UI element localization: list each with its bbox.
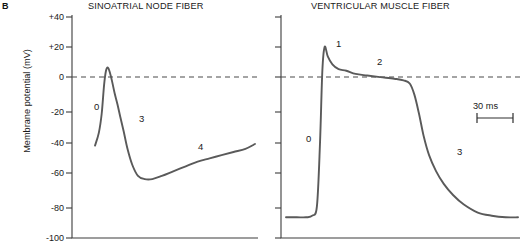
phase-label-vm-0: 0	[306, 133, 311, 144]
chart-title-ventricular: VENTRICULAR MUSCLE FIBER	[311, 1, 450, 11]
left-axis-ticks	[66, 17, 72, 238]
phase-label-sa-4: 4	[198, 141, 203, 152]
panel-letter-label: B	[2, 1, 9, 11]
y-tick-label-40: +40	[30, 12, 64, 22]
y-tick-label-neg40: -40	[30, 138, 64, 148]
chart-title-sinoatrial: SINOATRIAL NODE FIBER	[88, 1, 203, 11]
y-tick-label-neg20: -20	[30, 107, 64, 117]
phase-label-sa-3: 3	[139, 113, 144, 124]
sinoatrial-action-potential-trace	[95, 68, 255, 180]
y-tick-label-neg60: -60	[30, 168, 64, 178]
y-tick-label-0: 0	[30, 72, 64, 82]
right-axis-ticks	[275, 17, 281, 238]
scalebar-label: 30 ms	[473, 101, 498, 111]
ventricular-action-potential-trace	[286, 46, 518, 217]
phase-label-vm-3: 3	[457, 146, 462, 157]
figure-panel-b: B SINOATRIAL NODE FIBER VENTRICULAR MUSC…	[0, 0, 526, 245]
y-tick-label-neg100: -100	[24, 233, 64, 243]
plot-svg	[0, 0, 526, 245]
y-tick-label-neg80: -80	[30, 203, 64, 213]
scalebar-30ms	[477, 113, 513, 123]
phase-label-vm-1: 1	[336, 38, 341, 49]
phase-label-sa-0: 0	[94, 101, 99, 112]
phase-label-vm-2: 2	[377, 56, 382, 67]
axes-group	[66, 15, 520, 238]
y-tick-label-20: +20	[30, 42, 64, 52]
